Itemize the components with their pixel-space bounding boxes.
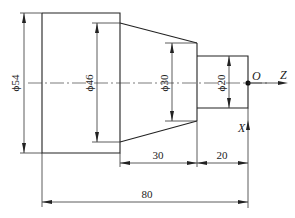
dim-len30 xyxy=(120,161,197,165)
dim-len20 xyxy=(197,161,248,165)
dim-dia20 xyxy=(227,56,231,108)
x-axis-arrow-icon xyxy=(246,120,250,130)
dia20-label: ϕ20 xyxy=(215,74,227,91)
len30-label: 30 xyxy=(153,149,165,161)
len80-label: 80 xyxy=(142,188,154,200)
x-axis-label: X xyxy=(237,121,246,135)
shaft-drawing: ϕ54 ϕ46 ϕ30 ϕ20 O Z X 30 xyxy=(0,0,295,218)
dim-len80 xyxy=(42,200,248,204)
dia54-label: ϕ54 xyxy=(9,74,21,91)
dim-dia46 xyxy=(92,23,120,142)
z-axis-label: Z xyxy=(280,68,287,82)
cone-top-edge xyxy=(120,23,197,43)
dia30-label: ϕ30 xyxy=(158,74,170,91)
origin-label: O xyxy=(252,69,261,83)
len20-label: 20 xyxy=(217,149,229,161)
dia46-label: ϕ46 xyxy=(83,74,95,91)
cone-bottom-edge xyxy=(120,121,197,142)
